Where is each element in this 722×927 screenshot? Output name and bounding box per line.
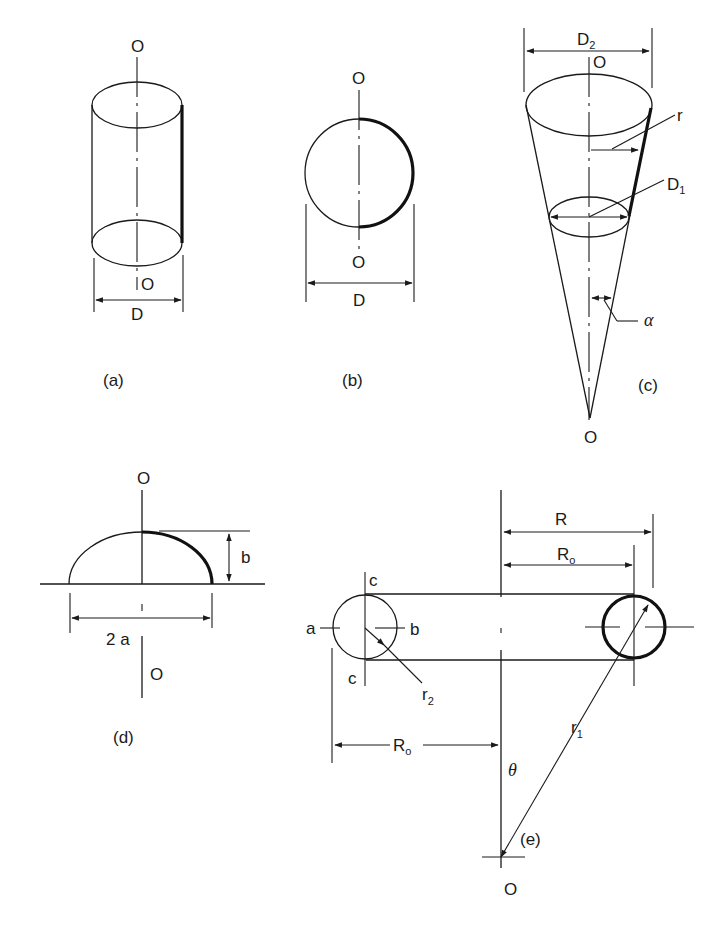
tube-radius-arrow: [365, 628, 384, 645]
shells-of-revolution-figure: O O D (a) O O D (b) D2 O: [0, 0, 722, 927]
axis-label-top: O: [137, 469, 150, 488]
point-b: b: [410, 620, 419, 639]
tube-radius-leader: [384, 645, 422, 683]
axis-label-top: O: [593, 53, 606, 72]
width-label: 2 a: [106, 630, 130, 649]
diameter-label: D: [131, 305, 143, 324]
axis-label-bottom: O: [150, 665, 163, 684]
middle-diameter-label: D1: [667, 175, 685, 196]
tube-radius-label: r2: [422, 685, 434, 707]
dome-left-arc: [69, 532, 142, 584]
axis-label-top: O: [352, 69, 365, 88]
panel-caption: (a): [103, 371, 124, 390]
axis-label-bottom: O: [504, 880, 517, 899]
panel-caption: (c): [638, 376, 658, 395]
top-diameter-label: D2: [577, 30, 595, 51]
panel-a-cylinder: O O D (a): [92, 37, 183, 390]
left-generator: [526, 105, 590, 418]
highlighted-meridian: [629, 108, 651, 216]
highlighted-meridian: [359, 119, 413, 227]
outer-radius-label: R: [555, 510, 567, 529]
axis-label-top: O: [131, 37, 144, 56]
panel-e-torus: R Ro c a b c r2 r1 θ Ro (e) O: [306, 490, 694, 899]
angle-label: α: [644, 310, 654, 330]
highlighted-meridian: [142, 532, 212, 584]
axis-label-bottom: O: [141, 275, 154, 294]
axis-label-bottom: O: [352, 253, 365, 272]
point-c-top: c: [369, 571, 378, 590]
meridian-radius-label: r1: [571, 718, 583, 740]
angle-leader-diag: [604, 300, 617, 321]
point-c-bottom: c: [348, 669, 357, 688]
panel-caption: (b): [342, 371, 363, 390]
radius-label: r: [677, 106, 683, 125]
point-a: a: [306, 619, 316, 638]
right-generator-lower: [590, 215, 630, 418]
panel-caption: (e): [520, 830, 541, 849]
mean-radius-label: Ro: [557, 545, 575, 566]
panel-b-sphere: O O D (b): [305, 69, 414, 390]
diameter-label: D: [353, 291, 365, 310]
height-label: b: [241, 548, 250, 567]
left-dimension-label: Ro: [393, 736, 411, 757]
panel-caption: (d): [113, 728, 134, 747]
middle-diameter-leader: [589, 180, 664, 217]
angle-label: θ: [508, 760, 517, 780]
axis-label-bottom: O: [584, 428, 597, 447]
panel-c-cone: D2 O r D1 α (c) O: [524, 28, 685, 447]
panel-d-dome: O b 2 a O (d): [40, 469, 265, 747]
